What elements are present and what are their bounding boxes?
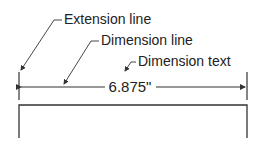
leader-extension-line bbox=[21, 20, 62, 70]
dimension-value: 6.875" bbox=[109, 78, 152, 95]
dimension-diagram: Extension line Dimension line Dimension … bbox=[0, 0, 261, 145]
label-dimension-text: Dimension text bbox=[138, 53, 231, 69]
label-extension-line: Extension line bbox=[64, 11, 151, 27]
leader-dimension-text bbox=[125, 62, 136, 71]
object-outline bbox=[19, 105, 247, 138]
leader-dimension-line bbox=[64, 41, 99, 84]
label-dimension-line: Dimension line bbox=[101, 32, 193, 48]
